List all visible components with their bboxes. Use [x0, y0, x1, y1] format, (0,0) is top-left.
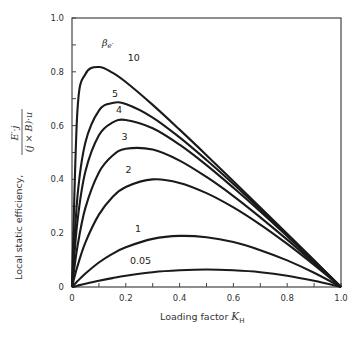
- x-tick-label: 0.2: [119, 293, 133, 303]
- x-tick-label: 0.6: [227, 293, 241, 303]
- curve-beta-4: [72, 120, 341, 287]
- curve-label-2: 2: [125, 164, 131, 175]
- curve-label-1: 1: [135, 223, 141, 234]
- y-tick-label: 0.2: [50, 228, 64, 238]
- x-tick-label: 0.4: [173, 293, 187, 303]
- curve-label-3: 3: [121, 131, 127, 142]
- y-tick-label: 1.0: [50, 13, 64, 23]
- x-axis-title: Loading factor KH: [160, 310, 244, 325]
- curve-beta-1: [72, 236, 341, 287]
- y-tick-label: 0.8: [50, 67, 64, 77]
- x-tick-label: 1.0: [334, 293, 348, 303]
- curve-beta-5: [72, 102, 341, 287]
- y-axis-title: Local static efficiency, E′·j (j × B)·u: [9, 109, 34, 280]
- svg-text:Loading factor KH: Loading factor KH: [160, 310, 244, 325]
- curves: [72, 67, 341, 287]
- y-tick-label: 0.4: [50, 174, 64, 184]
- curve-labels: 10543210.05: [112, 52, 151, 266]
- x-axis-title-subscript: H: [239, 317, 244, 325]
- x-axis-title-text: Loading factor: [160, 311, 231, 322]
- y-axis-title-numerator: E′·j: [9, 125, 20, 141]
- x-tick-label: 0.8: [280, 293, 294, 303]
- curve-label-10: 10: [128, 52, 140, 63]
- curve-label-0_05: 0.05: [130, 255, 151, 266]
- curve-label-4: 4: [116, 104, 122, 115]
- legend-title-beta: βe′: [101, 37, 114, 50]
- efficiency-chart: 00.20.40.60.81.000.20.40.60.81.0 1054321…: [0, 0, 363, 340]
- curve-beta-2: [72, 179, 341, 287]
- x-tick-label: 0: [69, 293, 74, 303]
- y-tick-label: 0.6: [50, 121, 64, 131]
- y-axis-title-text: Local static efficiency,: [13, 175, 24, 280]
- y-axis-title-denominator: (j × B)·u: [23, 112, 34, 152]
- curve-label-5: 5: [112, 88, 118, 99]
- y-tick-label: 0: [59, 282, 64, 292]
